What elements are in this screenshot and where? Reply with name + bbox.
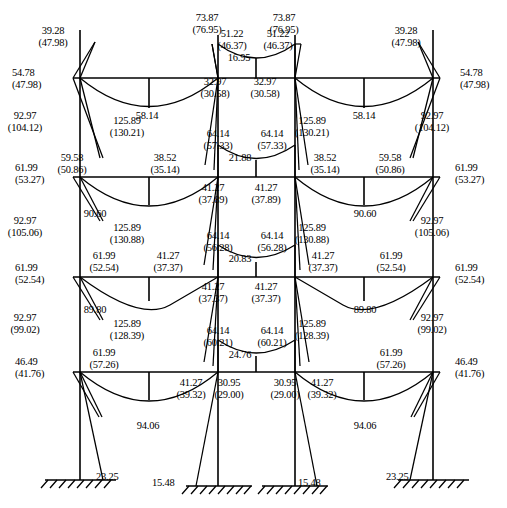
- l-f4-c3-below: 30.95 (29.00): [270, 377, 299, 400]
- l-f3-c1-above: 92.97 (105.06): [8, 215, 42, 238]
- l-f2-beam-right1: 38.52 (35.14): [150, 152, 179, 175]
- l-f3-bay1-mid: 89.80: [84, 304, 107, 316]
- l-f2-mid-sag: 21.88: [229, 152, 252, 164]
- l-base-c1: 23.25: [96, 471, 119, 483]
- l-f4-mid-c3: 64.14 (60.21): [257, 325, 286, 348]
- l-f4-c4-above: 92.97 (99.02): [417, 312, 446, 335]
- l-roof-c2-right: 51.22 (46.37): [217, 28, 246, 51]
- l-roof-right-col-top: 39.28 (47.98): [391, 25, 420, 48]
- bending-moment-diagram: 54.78 (47.98)39.28 (47.98)58.1473.87 (76…: [0, 0, 507, 508]
- l-f3-beam-left: 61.99 (52.54): [89, 250, 118, 273]
- l-f2-c2-above: 125.89 (130.21): [110, 115, 144, 138]
- l-f3-c2-above: 125.89 (130.88): [110, 222, 144, 245]
- l-f3-beam-right1: 41.27 (37.37): [153, 250, 182, 273]
- l-f4-right-ext: 46.49 (41.76): [455, 356, 484, 379]
- l-base-c3: 15.48: [298, 477, 321, 489]
- l-f2-mid-c3: 64.14 (57.33): [257, 128, 286, 151]
- l-c2-below-roof: 32.97 (30.58): [200, 76, 229, 99]
- l-f2-beam-right2: 38.52 (35.14): [310, 152, 339, 175]
- l-roof-left-col-top: 39.28 (47.98): [38, 25, 67, 48]
- l-f4-c2-above: 125.89 (128.39): [110, 318, 144, 341]
- l-f3-bay3-mid: 89.80: [354, 304, 377, 316]
- l-f3-beam-right3: 61.99 (52.54): [376, 250, 405, 273]
- l-f4-bay3-mid: 94.06: [354, 420, 377, 432]
- l-base-c4: 23.25: [386, 471, 409, 483]
- l-f3-right-ext: 61.99 (52.54): [455, 262, 484, 285]
- l-f2-mid-c2: 64.14 (57.33): [203, 128, 232, 151]
- l-f3-mid-sag: 20.83: [229, 253, 252, 265]
- l-f2-c3-below: 41.27 (37.89): [251, 182, 280, 205]
- l-f3-left-ext: 61.99 (52.54): [15, 262, 44, 285]
- l-roof-bay3-mid: 58.14: [353, 110, 376, 122]
- l-f4-c3r-below: 41.27 (39.32): [307, 377, 336, 400]
- l-f3-mid-c3: 64.14 (56.28): [257, 230, 286, 253]
- l-f3-c3-above: 125.89 (130.88): [295, 222, 329, 245]
- l-f4-beam-left: 61.99 (57.26): [89, 347, 118, 370]
- l-f4-mid-c2: 64.14 (60.21): [203, 325, 232, 348]
- l-f2-right-ext: 61.99 (53.27): [455, 162, 484, 185]
- l-f2-beam-left: 59.58 (50.86): [57, 152, 86, 175]
- l-f3-mid-c2: 64.14 (56.28): [203, 230, 232, 253]
- l-f3-c4-above: 92.97 (105.06): [415, 215, 449, 238]
- l-f4-bay1-mid: 94.06: [137, 420, 160, 432]
- l-base-c2: 15.48: [152, 477, 175, 489]
- l-f3-c3-below: 41.27 (37.37): [251, 281, 280, 304]
- l-f4-c1-above: 92.97 (99.02): [10, 312, 39, 335]
- l-roof-midbay-sag: 16.95: [228, 52, 251, 64]
- l-f2-c1-above: 92.97 (104.12): [8, 110, 42, 133]
- l-roof-right-ext-top: 54.78 (47.98): [460, 67, 489, 90]
- l-f4-mid-sag: 24.76: [229, 349, 252, 361]
- l-f2-bay3-mid: 90.60: [354, 208, 377, 220]
- l-c3-below-roof: 32.97 (30.58): [250, 76, 279, 99]
- l-f4-c2-below: 30.95 (29.00): [214, 377, 243, 400]
- l-f2-c4-above: 92.97 (104.12): [415, 110, 449, 133]
- l-f4-c3-above: 125.89 (128.39): [295, 318, 329, 341]
- l-f2-c3-above: 125.89 (130.21): [295, 115, 329, 138]
- l-f2-beam-right3: 59.58 (50.86): [375, 152, 404, 175]
- l-roof-c3-top: 73.87 (76.95): [269, 12, 298, 35]
- l-f2-bay1-mid: 90.60: [84, 208, 107, 220]
- l-f4-left-ext: 46.49 (41.76): [15, 356, 44, 379]
- l-f3-beam-right2: 41.27 (37.37): [308, 250, 337, 273]
- l-f4-c2l-below: 41.27 (39.32): [176, 377, 205, 400]
- l-roof-left-ext-top: 54.78 (47.98): [12, 67, 41, 90]
- l-f3-c2-below: 41.27 (37.37): [198, 281, 227, 304]
- l-f2-c2-below: 41.27 (37.89): [198, 182, 227, 205]
- l-f4-beam-right3: 61.99 (57.26): [376, 347, 405, 370]
- l-f2-left-ext: 61.99 (53.27): [15, 162, 44, 185]
